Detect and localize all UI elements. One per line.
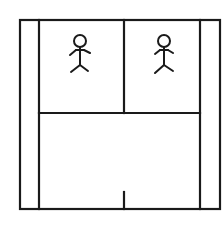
floor-plan-diagram (0, 0, 224, 232)
stick-figure-icon (70, 35, 90, 72)
floor-plan-svg (0, 0, 224, 232)
stick-figure-icon (155, 35, 173, 73)
outer-frame (20, 20, 220, 209)
